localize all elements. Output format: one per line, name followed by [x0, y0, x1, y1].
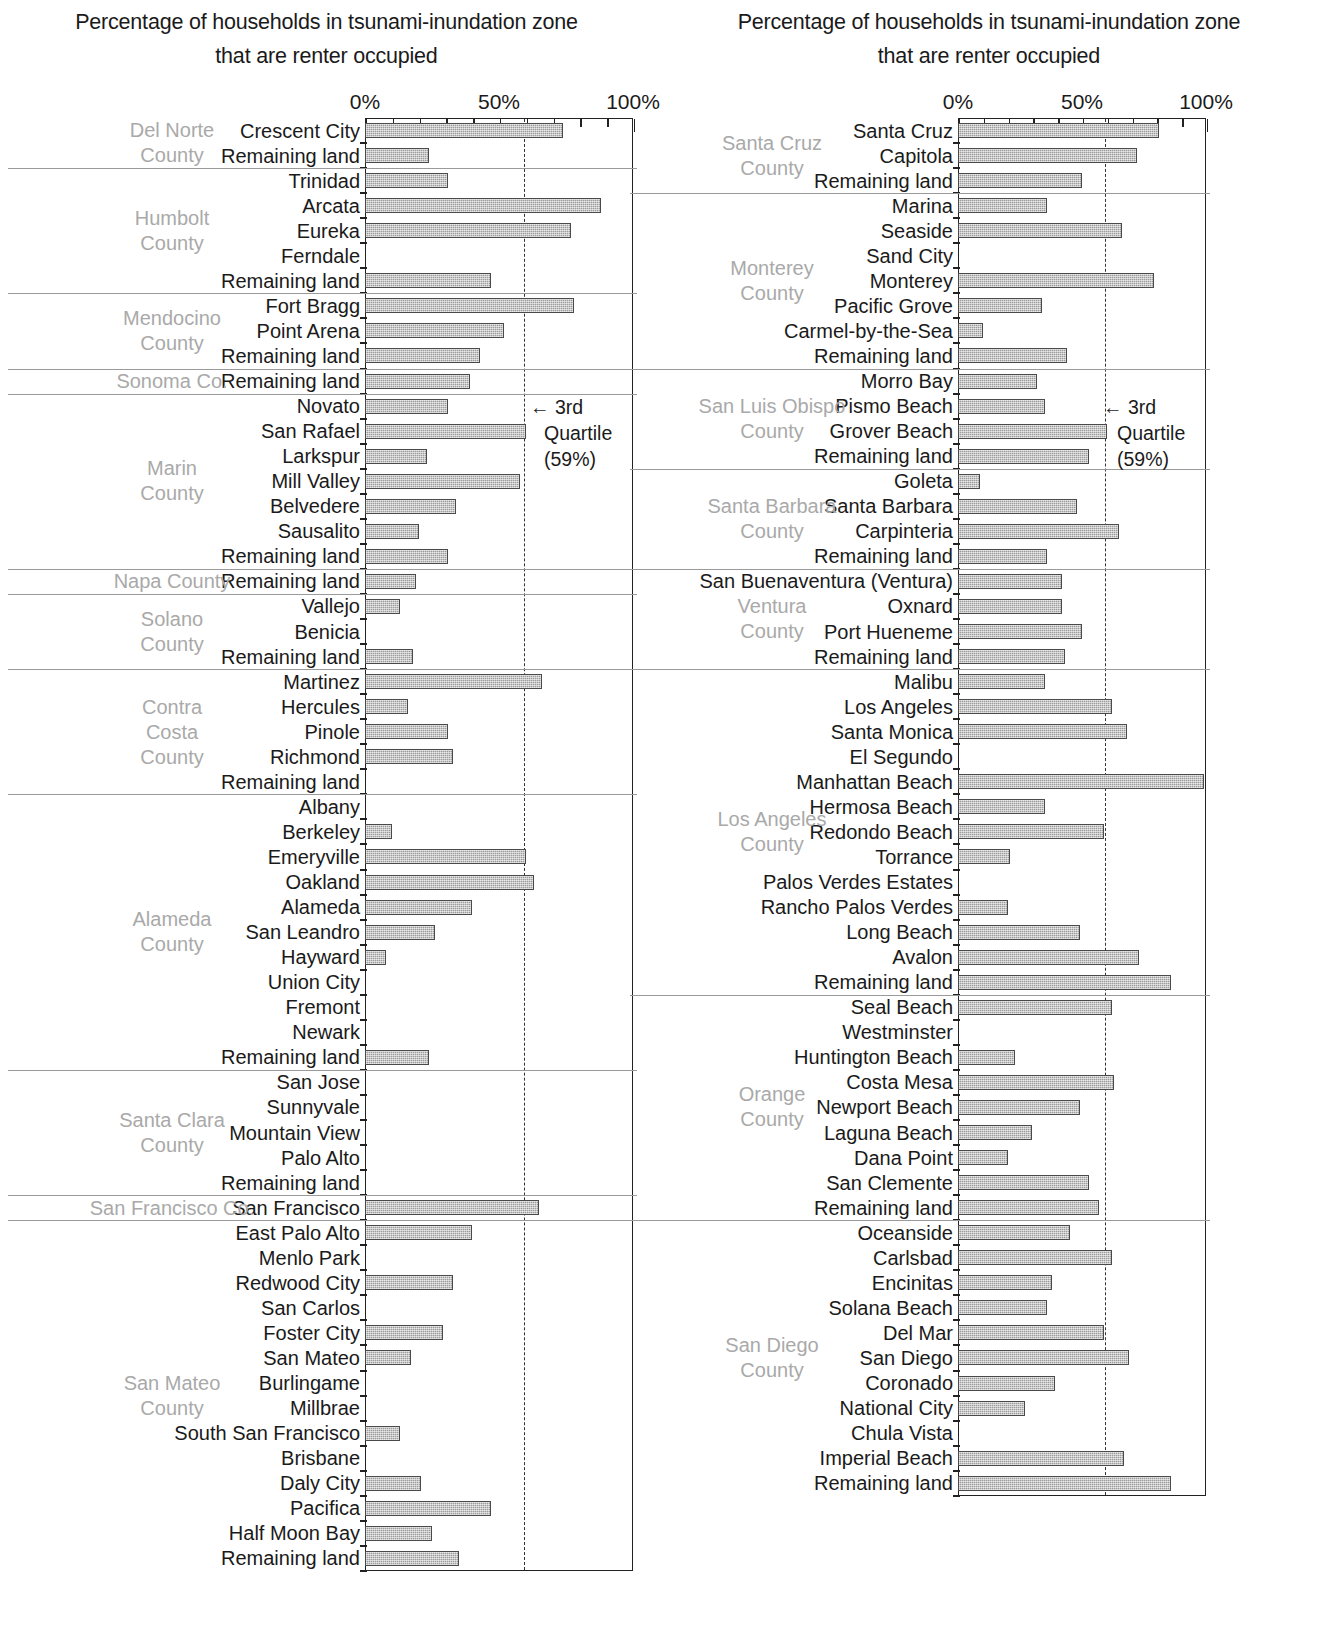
- axis-stub-tick: [360, 1344, 367, 1346]
- row-label: East Palo Alto: [235, 1223, 360, 1243]
- bar: [958, 399, 1045, 414]
- row-label: Sausalito: [278, 521, 360, 541]
- bar: [958, 1050, 1015, 1065]
- county-label-line: Mendocino: [123, 307, 221, 329]
- axis-stub-tick: [953, 1169, 960, 1171]
- row-label: Remaining land: [814, 1473, 953, 1493]
- bar: [958, 449, 1089, 464]
- county-label-line: Del Norte: [130, 119, 214, 141]
- axis-stub-tick: [953, 843, 960, 845]
- county-label-line: County: [140, 482, 203, 504]
- bar: [365, 574, 416, 589]
- county-label-line: Orange: [739, 1083, 806, 1105]
- row-label: Remaining land: [814, 546, 953, 566]
- bar: [365, 424, 526, 439]
- axis-stub-tick: [360, 543, 367, 545]
- bar: [365, 1325, 443, 1340]
- bar: [365, 599, 400, 614]
- axis-stub-tick: [360, 1570, 367, 1572]
- county-label-line: Napa County: [114, 570, 231, 592]
- county-label-line: Humbolt: [135, 207, 209, 229]
- axis-stub-tick: [360, 317, 367, 319]
- third-quartile-annotation: ← 3rdQuartile(59%): [530, 394, 612, 472]
- bar: [958, 1476, 1171, 1491]
- bar: [365, 348, 480, 363]
- county-group-label: San MateoCounty: [0, 1371, 344, 1421]
- axis-stub-tick: [953, 1420, 960, 1422]
- quartile-value-label: (59%): [1103, 446, 1185, 472]
- axis-stub-tick: [953, 1094, 960, 1096]
- county-group-label: Sonoma Co.: [0, 369, 344, 394]
- axis-stub-tick: [953, 518, 960, 520]
- bar: [958, 198, 1047, 213]
- county-label-line: County: [740, 1108, 803, 1130]
- axis-stub-tick: [953, 643, 960, 645]
- county-label-line: County: [140, 745, 203, 767]
- axis-stub-tick: [360, 493, 367, 495]
- bar: [365, 1225, 472, 1240]
- axis-stub-tick: [360, 217, 367, 219]
- axis-stub-tick: [360, 1495, 367, 1497]
- county-group-label: SolanoCounty: [0, 607, 344, 657]
- bar: [958, 499, 1077, 514]
- axis-stub-tick: [953, 217, 960, 219]
- county-label-line: County: [140, 633, 203, 655]
- axis-stub-tick: [360, 1319, 367, 1321]
- row-label: San Mateo: [263, 1348, 360, 1368]
- row-label: Martinez: [283, 672, 360, 692]
- bar: [958, 1225, 1070, 1240]
- row-label: San Buenaventura (Ventura): [699, 571, 953, 591]
- axis-stub-tick: [360, 1370, 367, 1372]
- chart-panel-right: Percentage of households in tsunami-inun…: [645, 0, 1325, 1652]
- axis-stub-tick: [360, 418, 367, 420]
- bar: [958, 1100, 1080, 1115]
- axis-stub-tick: [953, 793, 960, 795]
- axis-stub-tick: [360, 1144, 367, 1146]
- county-label-line: County: [140, 1397, 203, 1419]
- row-label: Los Angeles: [844, 697, 953, 717]
- bar: [365, 173, 448, 188]
- bar: [958, 1000, 1112, 1015]
- bar: [958, 1250, 1112, 1265]
- bar: [365, 875, 534, 890]
- bar: [958, 699, 1112, 714]
- bar: [365, 499, 456, 514]
- row-label: Remaining land: [221, 1548, 360, 1568]
- bar: [958, 599, 1062, 614]
- axis-stub-tick: [360, 142, 367, 144]
- axis-stub-tick: [360, 1520, 367, 1522]
- county-label-line: Costa: [146, 720, 198, 742]
- axis-stub-tick: [953, 768, 960, 770]
- axis-stub-tick: [360, 1445, 367, 1447]
- row-label: Rancho Palos Verdes: [761, 897, 953, 917]
- chart-panel-left: Percentage of households in tsunami-inun…: [0, 0, 645, 1652]
- bar: [365, 1350, 411, 1365]
- bar: [958, 424, 1107, 439]
- axis-stub-tick: [953, 1294, 960, 1296]
- row-label: San Carlos: [261, 1298, 360, 1318]
- row-label: Remaining land: [814, 647, 953, 667]
- bar: [958, 1150, 1008, 1165]
- bar: [958, 975, 1171, 990]
- axis-stub-tick: [360, 1169, 367, 1171]
- axis-stub-tick: [360, 643, 367, 645]
- bar: [365, 1501, 491, 1516]
- row-label: Malibu: [894, 672, 953, 692]
- axis-stub-tick: [360, 944, 367, 946]
- county-label-line: County: [740, 420, 803, 442]
- axis-stub-tick: [953, 167, 960, 169]
- axis-stub-tick: [360, 1395, 367, 1397]
- bar: [365, 1200, 539, 1215]
- row-label: Seal Beach: [851, 997, 953, 1017]
- axis-stub-tick: [360, 192, 367, 194]
- row-label: Berkeley: [282, 822, 360, 842]
- county-group-label: OrangeCounty: [645, 1082, 899, 1132]
- bar: [365, 1426, 400, 1441]
- bar: [958, 1075, 1114, 1090]
- county-group-label: ContraCostaCounty: [0, 694, 344, 769]
- county-label-line: County: [740, 1359, 803, 1381]
- bar: [365, 273, 491, 288]
- bar: [958, 799, 1045, 814]
- row-label: Manhattan Beach: [796, 772, 953, 792]
- county-group-label: Santa ClaraCounty: [0, 1108, 344, 1158]
